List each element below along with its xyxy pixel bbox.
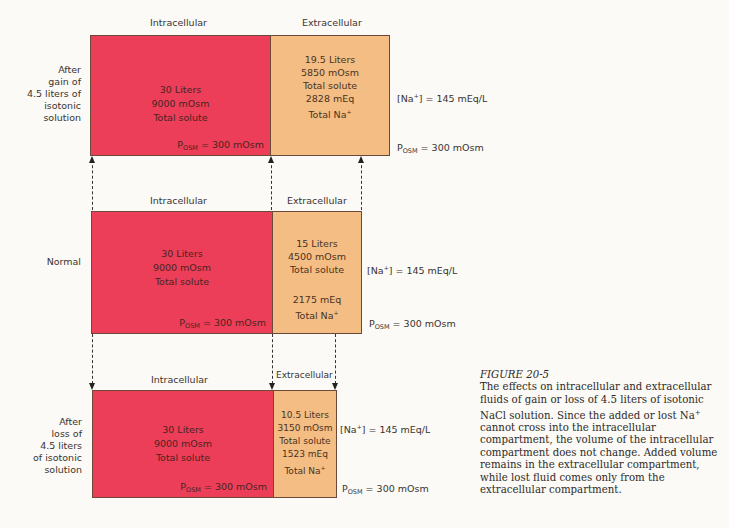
row-label-line: solution xyxy=(20,112,81,124)
intracellular-contents: 30 Liters 9000 mOsm Total solute xyxy=(93,423,273,465)
sodium-concentration: [Na+] = 145 mEq/L xyxy=(397,92,487,104)
extracellular-header: Extracellular xyxy=(302,17,362,28)
extracellular-box: 10.5 Liters 3150 mOsm Total solute 1523 … xyxy=(273,390,337,498)
intracellular-posm: POSM = 300 mOsm xyxy=(177,139,264,152)
osmoles-text: 9000 mOsm xyxy=(92,261,272,275)
volume-text: 30 Liters xyxy=(91,83,270,97)
intracellular-header: Intracellular xyxy=(151,374,208,385)
arrow-down-icon xyxy=(89,383,95,390)
row-label-line: After xyxy=(20,64,81,76)
sodium-concentration: [Na+] = 145 mEq/L xyxy=(367,264,457,276)
sodium-concentration: [Na+] = 145 mEq/L xyxy=(340,423,430,435)
row-label-loss: After loss of 4.5 liters of isotonic sol… xyxy=(20,416,82,476)
figure-number: FIGURE 20-5 xyxy=(480,369,725,381)
volume-text: 30 Liters xyxy=(92,247,272,261)
sodium-label: Total Na+ xyxy=(274,461,336,478)
sodium-label: Total Na+ xyxy=(271,105,389,121)
intracellular-posm: POSM = 300 mOsm xyxy=(179,317,266,330)
sodium-amount-text: 2828 mEq xyxy=(271,92,389,105)
row-label-line: loss of xyxy=(20,428,82,440)
intracellular-box: 30 Liters 9000 mOsm Total solute POSM = … xyxy=(91,211,273,334)
osmoles-text: 4500 mOsm xyxy=(273,250,361,263)
row-label-line: Normal xyxy=(20,256,81,268)
intracellular-contents: 30 Liters 9000 mOsm Total solute xyxy=(92,247,272,289)
volume-text: 10.5 Liters xyxy=(274,409,336,422)
sodium-amount-text: 1523 mEq xyxy=(274,448,336,461)
solute-text: Total solute xyxy=(273,263,361,276)
row-label-line: of isotonic xyxy=(20,452,82,464)
row-label-line: After xyxy=(20,416,82,428)
intracellular-header: Intracellular xyxy=(150,195,207,206)
solute-text: Total solute xyxy=(274,435,336,448)
volume-text: 15 Liters xyxy=(273,237,361,250)
arrow-up-icon xyxy=(358,156,364,163)
sodium-label: Total Na+ xyxy=(273,306,361,322)
intracellular-header: Intracellular xyxy=(150,17,207,28)
arrow-up-icon xyxy=(89,156,95,163)
arrow-up-icon xyxy=(268,156,274,163)
intracellular-posm: POSM = 300 mOsm xyxy=(180,481,267,494)
arrow-down-icon xyxy=(332,383,338,390)
extracellular-contents: 10.5 Liters 3150 mOsm Total solute 1523 … xyxy=(274,409,336,478)
extracellular-contents: 15 Liters 4500 mOsm Total solute 2175 mE… xyxy=(273,237,361,322)
osmoles-text: 3150 mOsm xyxy=(274,422,336,435)
extracellular-box: 19.5 Liters 5850 mOsm Total solute 2828 … xyxy=(270,35,390,156)
row-label-gain: After gain of 4.5 liters of isotonic sol… xyxy=(20,64,81,124)
connector-line xyxy=(271,160,272,210)
connector-line xyxy=(335,334,336,384)
row-label-line: 4.5 liters xyxy=(20,440,82,452)
solute-text: Total solute xyxy=(91,111,270,125)
solute-text: Total solute xyxy=(271,79,389,92)
connector-line xyxy=(272,334,273,384)
solute-text: Total solute xyxy=(92,275,272,289)
sodium-amount-text: 2175 mEq xyxy=(273,293,361,306)
extracellular-header: Extracellular xyxy=(276,370,333,380)
connector-line xyxy=(92,334,93,384)
plasma-osmolality: POSM = 300 mOsm xyxy=(369,318,456,331)
figure-caption: FIGURE 20-5 The effects on intracellular… xyxy=(480,369,725,496)
row-label-line: 4.5 liters of xyxy=(20,88,81,100)
osmoles-text: 9000 mOsm xyxy=(91,97,270,111)
caption-text: The effects on intracellular and extrace… xyxy=(480,381,717,495)
osmoles-text: 5850 mOsm xyxy=(271,66,389,79)
extracellular-header: Extracellular xyxy=(287,195,347,206)
intracellular-box: 30 Liters 9000 mOsm Total solute POSM = … xyxy=(90,35,271,156)
row-label-normal: Normal xyxy=(20,256,81,268)
volume-text: 30 Liters xyxy=(93,423,273,437)
plasma-osmolality: POSM = 300 mOsm xyxy=(397,142,484,155)
connector-line xyxy=(92,160,93,210)
intracellular-box: 30 Liters 9000 mOsm Total solute POSM = … xyxy=(92,390,274,498)
solute-text: Total solute xyxy=(93,451,273,465)
extracellular-contents: 19.5 Liters 5850 mOsm Total solute 2828 … xyxy=(271,53,389,121)
extracellular-box: 15 Liters 4500 mOsm Total solute 2175 mE… xyxy=(272,211,362,334)
plasma-osmolality: POSM = 300 mOsm xyxy=(342,483,429,496)
row-label-line: gain of xyxy=(20,76,81,88)
arrow-down-icon xyxy=(269,383,275,390)
row-label-line: solution xyxy=(20,464,82,476)
volume-text: 19.5 Liters xyxy=(271,53,389,66)
row-label-line: isotonic xyxy=(20,100,81,112)
intracellular-contents: 30 Liters 9000 mOsm Total solute xyxy=(91,83,270,125)
connector-line xyxy=(361,160,362,210)
osmoles-text: 9000 mOsm xyxy=(93,437,273,451)
